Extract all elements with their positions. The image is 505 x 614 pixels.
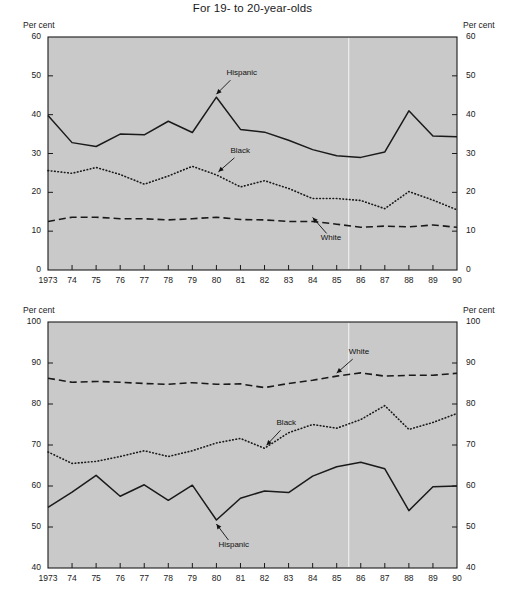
y-tick-label-right: 80 [466, 398, 492, 408]
x-tick-label: 75 [91, 275, 100, 285]
y-tick-label-right: 10 [466, 225, 492, 235]
x-tick-label: 85 [332, 275, 341, 285]
x-tick-label: 87 [380, 275, 389, 285]
x-tick-label: 75 [91, 573, 100, 583]
x-tick-label: 80 [212, 573, 221, 583]
y-tick-label-left: 60 [15, 480, 41, 490]
x-tick-label: 88 [404, 275, 413, 285]
y-tick-label-left: 0 [15, 264, 41, 274]
x-tick-label: 79 [188, 573, 197, 583]
y-tick-label-right: 50 [466, 521, 492, 531]
y-tick-label-left: 20 [15, 186, 41, 196]
x-tick-label: 84 [308, 275, 317, 285]
x-tick-label: 81 [236, 275, 245, 285]
y-tick-label-left: 70 [15, 439, 41, 449]
x-tick-label: 86 [356, 275, 365, 285]
x-tick-label: 76 [115, 275, 124, 285]
x-tick-label: 74 [67, 573, 76, 583]
series-annotation-label-hispanic: Hispanic [218, 540, 249, 549]
x-tick-label: 80 [212, 275, 221, 285]
x-tick-label: 90 [452, 573, 461, 583]
x-tick-label: 83 [284, 275, 293, 285]
y-tick-label-left: 50 [15, 70, 41, 80]
series-annotation-label-white: White [321, 233, 341, 242]
x-tick-label: 83 [284, 573, 293, 583]
y-tick-label-right: 20 [466, 186, 492, 196]
series-annotation-label-black: Black [230, 146, 250, 155]
y-tick-label-left: 40 [15, 562, 41, 572]
x-tick-label: 74 [67, 275, 76, 285]
y-tick-label-left: 10 [15, 225, 41, 235]
y-tick-label-left: 40 [15, 109, 41, 119]
x-tick-label: 88 [404, 573, 413, 583]
series-annotation-label-black: Black [277, 418, 297, 427]
x-tick-label: 76 [115, 573, 124, 583]
y-tick-label-right: 60 [466, 480, 492, 490]
y-tick-label-right: 0 [466, 264, 492, 274]
x-tick-label: 82 [260, 573, 269, 583]
y-tick-label-left: 30 [15, 148, 41, 158]
x-tick-label: 82 [260, 275, 269, 285]
x-tick-label: 77 [140, 573, 149, 583]
x-tick-label: 86 [356, 573, 365, 583]
y-tick-label-left: 100 [15, 316, 41, 326]
x-tick-label: 81 [236, 573, 245, 583]
x-tick-label: 90 [452, 275, 461, 285]
series-annotation-label-hispanic: Hispanic [226, 68, 257, 77]
x-tick-label: 1973 [39, 573, 58, 583]
x-tick-label: 89 [428, 275, 437, 285]
figure-container: For 19- to 20-year-olds Per cent Per cen… [0, 0, 505, 614]
chart-panel-dropout-rate: Per cent Per cent Dropout rate 001010202… [0, 20, 505, 305]
y-tick-label-right: 40 [466, 562, 492, 572]
series-annotation-label-white: White [349, 347, 369, 356]
y-tick-label-left: 90 [15, 357, 41, 367]
chart-svg-dropout-rate [0, 20, 505, 305]
y-tick-label-right: 50 [466, 70, 492, 80]
x-tick-label: 78 [164, 573, 173, 583]
y-tick-label-right: 90 [466, 357, 492, 367]
x-tick-label: 85 [332, 573, 341, 583]
x-tick-label: 89 [428, 573, 437, 583]
x-tick-label: 84 [308, 573, 317, 583]
plot-area [48, 322, 457, 568]
y-tick-label-right: 100 [466, 316, 492, 326]
chart-panel-completion-rate: Per cent Per cent High school completion… [0, 305, 505, 614]
figure-title: For 19- to 20-year-olds [0, 2, 505, 14]
x-tick-label: 87 [380, 573, 389, 583]
y-tick-label-right: 40 [466, 109, 492, 119]
y-tick-label-left: 60 [15, 31, 41, 41]
y-tick-label-right: 30 [466, 148, 492, 158]
y-tick-label-left: 50 [15, 521, 41, 531]
y-tick-label-right: 70 [466, 439, 492, 449]
x-tick-label: 79 [188, 275, 197, 285]
x-tick-label: 77 [140, 275, 149, 285]
y-tick-label-left: 80 [15, 398, 41, 408]
x-tick-label: 78 [164, 275, 173, 285]
y-tick-label-right: 60 [466, 31, 492, 41]
chart-svg-completion-rate [0, 305, 505, 614]
x-tick-label: 1973 [39, 275, 58, 285]
